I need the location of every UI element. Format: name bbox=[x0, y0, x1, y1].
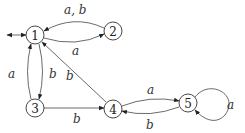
edge-label: b bbox=[146, 118, 154, 132]
state-label: 1 bbox=[31, 29, 39, 43]
edge-5-to-4: b bbox=[122, 107, 179, 132]
state-4: 4 bbox=[104, 100, 122, 118]
edge-3-to-1: a bbox=[8, 44, 31, 99]
state-label: 4 bbox=[109, 103, 117, 117]
state-label: 3 bbox=[31, 102, 39, 116]
edge-label: b bbox=[66, 69, 74, 83]
state-3: 3 bbox=[26, 99, 44, 117]
state-5: 5 bbox=[179, 94, 197, 112]
edge-1-to-2: a bbox=[44, 34, 104, 58]
state-1: 1 bbox=[26, 26, 44, 44]
edge-label: b bbox=[73, 112, 81, 126]
state-label: 2 bbox=[109, 25, 117, 39]
edge-label: a bbox=[227, 98, 234, 112]
state-label: 5 bbox=[184, 97, 192, 111]
state-2: 2 bbox=[104, 22, 122, 40]
edge-label: a bbox=[72, 44, 79, 58]
edge-2-to-1: a, b bbox=[44, 3, 104, 31]
edge-5-self-loop: a bbox=[195, 89, 234, 121]
edge-label: a bbox=[8, 67, 15, 81]
edge-label: b bbox=[49, 67, 57, 81]
edge-3-to-4: b bbox=[44, 108, 104, 126]
edge-1-to-3: b bbox=[39, 44, 57, 99]
edge-label: a, b bbox=[64, 3, 86, 17]
edge-4-to-5: a bbox=[122, 83, 179, 106]
automaton-diagram: a, b a a b b b a b a 1 bbox=[0, 0, 245, 133]
edge-label: a bbox=[147, 83, 154, 97]
